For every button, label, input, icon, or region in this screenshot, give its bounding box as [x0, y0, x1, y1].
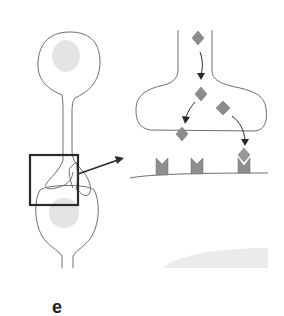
receptor-icon	[191, 158, 203, 174]
upper-neuron-outline-left	[62, 95, 63, 160]
postsynaptic-shade	[162, 248, 268, 268]
receptors	[156, 148, 250, 175]
axon-terminal-outline	[136, 30, 267, 131]
release-arrows	[186, 52, 245, 140]
upper-nucleus	[52, 40, 80, 72]
molecule-icon	[176, 127, 188, 141]
lower-neuron	[36, 186, 99, 269]
molecule-bound-icon	[238, 148, 250, 162]
molecule-icon	[216, 101, 230, 115]
arrowheads	[182, 73, 249, 146]
zoom-arrow	[78, 156, 124, 174]
synapse-diagram	[0, 0, 284, 316]
receptor-icon	[156, 158, 168, 175]
panel-label: e	[52, 298, 62, 316]
neurotransmitters	[176, 31, 230, 141]
molecule-icon	[192, 31, 204, 45]
molecule-icon	[195, 87, 207, 101]
lower-nucleus	[49, 198, 79, 228]
